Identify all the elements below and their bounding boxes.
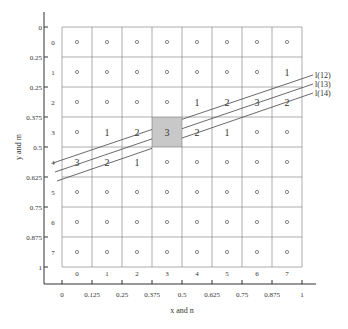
x-tick-label: 0.375 — [144, 291, 160, 299]
empty-cell-marker — [225, 40, 228, 43]
empty-cell-marker — [225, 160, 228, 163]
cell-value: 3 — [165, 127, 170, 138]
grid-diagram: 00.250.250.3750.50.6250.750.875100.1250.… — [0, 0, 348, 329]
empty-cell-marker — [135, 100, 138, 103]
line-label: l(13) — [315, 80, 331, 89]
cell-value: 1 — [285, 67, 290, 78]
empty-cell-marker — [105, 70, 108, 73]
empty-cell-marker — [75, 220, 78, 223]
empty-cell-marker — [165, 100, 168, 103]
x-tick-label: 0.5 — [178, 291, 187, 299]
projection-line — [182, 93, 313, 138]
cell-value: 1 — [135, 157, 140, 168]
row-index: 1 — [51, 69, 55, 77]
empty-cell-marker — [135, 190, 138, 193]
empty-cell-marker — [135, 250, 138, 253]
empty-cell-marker — [225, 70, 228, 73]
row-index: 0 — [51, 39, 55, 47]
x-axis-label: x and n — [170, 306, 194, 315]
empty-cell-marker — [105, 40, 108, 43]
y-tick-label: 0.5 — [33, 144, 42, 152]
row-index: 7 — [51, 249, 55, 257]
grid-lines — [62, 27, 302, 267]
x-tick-label: 0.875 — [264, 291, 280, 299]
col-index: 6 — [255, 270, 259, 278]
empty-cell-marker — [285, 220, 288, 223]
empty-cell-marker — [285, 160, 288, 163]
col-index: 1 — [105, 270, 109, 278]
row-index: 5 — [51, 189, 55, 197]
empty-cell-marker — [75, 190, 78, 193]
empty-cell-marker — [195, 190, 198, 193]
line-label: l(14) — [315, 89, 331, 98]
axes: 00.250.250.3750.50.6250.750.875100.1250.… — [26, 12, 316, 299]
empty-cell-marker — [285, 250, 288, 253]
x-tick-label: 0.625 — [204, 291, 220, 299]
empty-cell-marker — [255, 250, 258, 253]
col-index: 7 — [285, 270, 289, 278]
empty-cell-marker — [195, 160, 198, 163]
x-tick-label: 0.25 — [116, 291, 129, 299]
x-tick-label: 0 — [60, 291, 64, 299]
empty-cell-marker — [225, 250, 228, 253]
y-tick-label: 0 — [39, 24, 43, 32]
row-index: 3 — [51, 129, 55, 137]
col-index: 4 — [195, 270, 199, 278]
empty-cell-marker — [195, 70, 198, 73]
empty-cell-marker — [165, 40, 168, 43]
empty-cell-marker — [255, 70, 258, 73]
cell-value: 3 — [75, 157, 80, 168]
empty-cell-marker — [285, 130, 288, 133]
x-tick-label: 0.125 — [84, 291, 100, 299]
y-tick-label: 0.375 — [26, 114, 42, 122]
cell-value: 1 — [195, 97, 200, 108]
projection-lines: l(12)l(13)l(14) — [53, 71, 331, 181]
empty-cell-marker — [75, 130, 78, 133]
empty-cell-marker — [165, 190, 168, 193]
x-tick-label: 0.75 — [236, 291, 249, 299]
empty-cell-marker — [75, 100, 78, 103]
y-tick-label: 0.25 — [30, 54, 43, 62]
col-index: 3 — [165, 270, 169, 278]
empty-cell-marker — [255, 40, 258, 43]
y-tick-label: 0.75 — [30, 204, 43, 212]
empty-cell-marker — [75, 70, 78, 73]
empty-cell-marker — [165, 160, 168, 163]
empty-cell-marker — [255, 190, 258, 193]
empty-cell-marker — [285, 190, 288, 193]
cell-value: 2 — [225, 97, 230, 108]
cell-value: 1 — [225, 127, 230, 138]
empty-cell-marker — [285, 40, 288, 43]
col-index: 5 — [225, 270, 229, 278]
empty-cell-marker — [135, 70, 138, 73]
y-tick-label: 0.875 — [26, 234, 42, 242]
empty-cell-marker — [105, 250, 108, 253]
x-tick-label: 1 — [300, 291, 304, 299]
empty-cell-marker — [75, 250, 78, 253]
empty-cell-marker — [195, 40, 198, 43]
cell-value: 2 — [135, 127, 140, 138]
empty-cell-marker — [165, 70, 168, 73]
empty-cell-marker — [165, 220, 168, 223]
empty-cell-marker — [165, 250, 168, 253]
empty-cell-marker — [135, 220, 138, 223]
y-tick-label: 1 — [39, 264, 43, 272]
empty-cell-marker — [225, 220, 228, 223]
col-index: 0 — [75, 270, 79, 278]
empty-cell-marker — [225, 190, 228, 193]
cell-value: 1 — [105, 127, 110, 138]
empty-cell-marker — [195, 250, 198, 253]
projection-line — [182, 84, 313, 129]
empty-cell-marker — [105, 220, 108, 223]
row-index: 6 — [51, 219, 55, 227]
empty-cell-marker — [255, 130, 258, 133]
empty-cell-marker — [195, 220, 198, 223]
projection-line — [182, 75, 313, 119]
line-label: l(12) — [315, 71, 331, 80]
col-index: 2 — [135, 270, 139, 278]
empty-cell-marker — [105, 100, 108, 103]
row-index: 2 — [51, 99, 55, 107]
y-tick-label: 0.25 — [30, 84, 43, 92]
empty-cell-marker — [105, 190, 108, 193]
cell-value: 2 — [105, 157, 110, 168]
